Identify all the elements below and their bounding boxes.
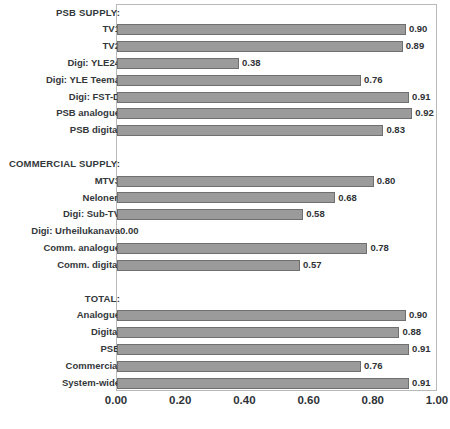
x-tick-label: 0.20: [169, 394, 191, 406]
chart-row: Digi: Sub-TV0.58: [0, 206, 450, 223]
bar: [117, 192, 335, 203]
bar-value-label: 0.76: [364, 72, 383, 89]
chart-row: PSB analogue0.92: [0, 105, 450, 122]
x-tick-label: 0.60: [297, 394, 319, 406]
section-heading-row: PSB SUPPLY:: [0, 5, 450, 22]
bar-value-label: 0.76: [364, 358, 383, 375]
category-label: System-wide: [62, 375, 120, 392]
section-heading-row: COMMERCIAL SUPPLY:: [0, 156, 450, 173]
bar-value-label: 0.83: [386, 122, 405, 139]
bar: [117, 125, 383, 136]
chart-row: TV20.89: [0, 38, 450, 55]
bar: [117, 209, 303, 220]
bar-value-label: 0.57: [303, 257, 322, 274]
bar-value-label: 0.68: [338, 190, 357, 207]
bar: [117, 41, 403, 52]
category-label: Analogue: [77, 307, 120, 324]
section-heading-row: TOTAL:: [0, 291, 450, 308]
bar-value-label: 0.78: [370, 240, 389, 257]
bar-value-label: 0.91: [412, 341, 431, 358]
bar: [117, 58, 239, 69]
bar-value-label: 0.90: [409, 21, 428, 38]
bar-value-label: 0.92: [415, 105, 434, 122]
chart-row: [0, 139, 450, 156]
chart-row: PSB0.91: [0, 341, 450, 358]
bar-value-label: 0.91: [412, 89, 431, 106]
chart-row: Comm. analogue0.78: [0, 240, 450, 257]
category-label: Digi: YLE Teema: [46, 72, 120, 89]
chart-row: Nelonen0.68: [0, 190, 450, 207]
chart-row: Digi: YLE240.38: [0, 55, 450, 72]
bar: [117, 344, 409, 355]
bar-value-label: 0.88: [402, 324, 421, 341]
x-tick-label: 0.40: [233, 394, 255, 406]
x-tick-label: 0.80: [362, 394, 384, 406]
chart-row: Digital0.88: [0, 324, 450, 341]
category-label: Digi: Urheilukanava: [31, 223, 120, 240]
bar: [117, 243, 367, 254]
x-axis: 0.000.200.400.600.801.00: [0, 394, 450, 418]
chart-row: Comm. digital0.57: [0, 257, 450, 274]
chart-row: MTV30.80: [0, 173, 450, 190]
category-label: PSB digital: [70, 122, 120, 139]
x-tick-label: 1.00: [426, 394, 448, 406]
bar: [117, 75, 361, 86]
bar-value-label: 0.58: [306, 206, 325, 223]
chart-row: TV10.90: [0, 21, 450, 38]
chart-row: Analogue0.90: [0, 307, 450, 324]
bar: [117, 108, 412, 119]
bar: [117, 260, 300, 271]
x-tick-label: 0.00: [105, 394, 127, 406]
bar-value-label: 0.91: [412, 375, 431, 392]
category-label: Comm. digital: [57, 257, 120, 274]
category-label: Nelonen: [83, 190, 120, 207]
bar-value-label: 0.38: [242, 55, 261, 72]
section-label: TOTAL:: [85, 291, 120, 308]
bar: [117, 361, 361, 372]
chart-row: Digi: FST-D0.91: [0, 89, 450, 106]
bar: [117, 176, 374, 187]
section-label: PSB SUPPLY:: [56, 5, 120, 22]
chart-row: Digi: YLE Teema0.76: [0, 72, 450, 89]
category-label: Commercial: [66, 358, 120, 375]
chart-row: PSB digital0.83: [0, 122, 450, 139]
bar-value-label: 0.80: [377, 173, 396, 190]
chart-row: Digi: Urheilukanava0.00: [0, 223, 450, 240]
chart-row: Commercial0.76: [0, 358, 450, 375]
category-label: Digi: Sub-TV: [63, 206, 120, 223]
bar-value-label: 0.00: [120, 223, 139, 240]
bar-chart: PSB SUPPLY:TV10.90TV20.89Digi: YLE240.38…: [0, 0, 450, 429]
bar: [117, 378, 409, 389]
bar: [117, 24, 406, 35]
bar-value-label: 0.90: [409, 307, 428, 324]
chart-row: [0, 274, 450, 291]
chart-row: System-wide0.91: [0, 375, 450, 392]
category-label: Comm. analogue: [43, 240, 120, 257]
category-label: Digi: FST-D: [69, 89, 120, 106]
bar: [117, 92, 409, 103]
category-label: PSB analogue: [56, 105, 120, 122]
bar: [117, 310, 406, 321]
section-label: COMMERCIAL SUPPLY:: [9, 156, 120, 173]
bar: [117, 327, 399, 338]
category-label: Digital: [91, 324, 120, 341]
bar-value-label: 0.89: [406, 38, 425, 55]
category-label: Digi: YLE24: [67, 55, 120, 72]
